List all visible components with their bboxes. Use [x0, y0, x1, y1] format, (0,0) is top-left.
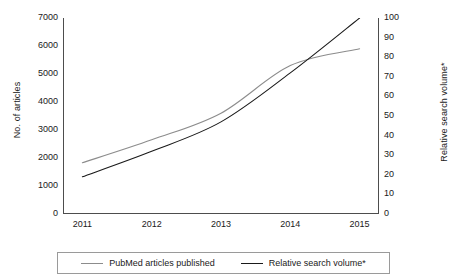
series-line-relative-search-volume: [82, 18, 359, 177]
y-axis-left-tick-label: 0: [24, 208, 58, 218]
y-axis-left-tick-label: 7000: [24, 12, 58, 22]
plot-area: [63, 18, 379, 214]
y-axis-right-tick-label: 10: [384, 188, 414, 198]
y-axis-right-tick-label: 60: [384, 90, 414, 100]
legend-item[interactable]: PubMed articles published: [81, 258, 215, 268]
x-axis-tick-label: 2015: [340, 219, 380, 229]
legend-item-label: PubMed articles published: [109, 258, 215, 268]
legend-item[interactable]: Relative search volume*: [241, 258, 366, 268]
series-lines: [63, 18, 379, 214]
x-axis-tick-label: 2012: [132, 219, 172, 229]
y-axis-left-tick-label: 4000: [24, 96, 58, 106]
y-axis-right-tick-label: 50: [384, 110, 414, 120]
y-axis-left-title: No. of articles: [12, 55, 22, 165]
x-axis-tick-label: 2013: [201, 219, 241, 229]
y-axis-right-title: Relative search volume*: [439, 42, 449, 182]
chart-legend: PubMed articles publishedRelative search…: [57, 252, 390, 274]
y-axis-right-tick-label: 100: [384, 12, 414, 22]
y-axis-right-tick-label: 30: [384, 149, 414, 159]
legend-item-label: Relative search volume*: [269, 258, 366, 268]
y-axis-left-tick-label: 2000: [24, 152, 58, 162]
y-axis-right-tick-label: 70: [384, 71, 414, 81]
y-axis-left-tick-label: 1000: [24, 180, 58, 190]
x-axis-tick-label: 2011: [62, 219, 102, 229]
y-axis-right-tick-label: 90: [384, 32, 414, 42]
series-line-pubmed-articles-published: [82, 49, 359, 163]
x-axis-tick-label: 2014: [270, 219, 310, 229]
y-axis-right-tick-label: 20: [384, 169, 414, 179]
y-axis-right-tick-label: 40: [384, 130, 414, 140]
y-axis-left-tick-label: 3000: [24, 124, 58, 134]
y-axis-left-tick-label: 6000: [24, 40, 58, 50]
legend-line-swatch: [241, 263, 263, 264]
y-axis-left-tick-label: 5000: [24, 68, 58, 78]
y-axis-right-tick-label: 0: [384, 208, 414, 218]
y-axis-right-tick-label: 80: [384, 51, 414, 61]
legend-line-swatch: [81, 263, 103, 264]
